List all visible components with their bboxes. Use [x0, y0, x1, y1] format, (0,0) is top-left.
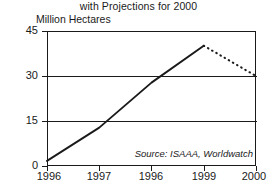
x-tick-label-1998: 1996	[131, 170, 171, 182]
gridline-30	[48, 76, 257, 77]
y-tick-label-30: 30	[8, 70, 38, 81]
chart-figure: with Projections for 2000 Million Hectar…	[0, 0, 277, 187]
y-axis-unit-label: Million Hectares	[36, 13, 111, 26]
y-tick-mark-45	[42, 31, 47, 32]
x-tick-label-1999: 1999	[184, 170, 224, 182]
source-attribution: Source: ISAAA, Worldwatch	[135, 148, 253, 159]
y-tick-mark-15	[42, 121, 47, 122]
y-tick-mark-30	[42, 76, 47, 77]
x-tick-label-1996: 1996	[29, 170, 69, 182]
gridline-15	[48, 121, 257, 122]
plot-area	[47, 31, 256, 166]
y-tick-label-45: 45	[8, 25, 38, 36]
chart-title: with Projections for 2000	[0, 0, 277, 13]
y-tick-label-15: 15	[8, 115, 38, 126]
x-tick-label-1997: 1997	[79, 170, 119, 182]
x-tick-label-2000: 2000	[234, 170, 274, 182]
